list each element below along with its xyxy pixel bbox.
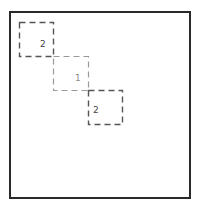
box-b-label: 1	[75, 74, 81, 83]
dashed-box-b	[54, 57, 89, 91]
dashed-box-a	[20, 23, 54, 57]
dashed-boxes	[0, 0, 199, 206]
box-c-label: 2	[93, 106, 99, 115]
box-a-label: 2	[40, 40, 46, 49]
